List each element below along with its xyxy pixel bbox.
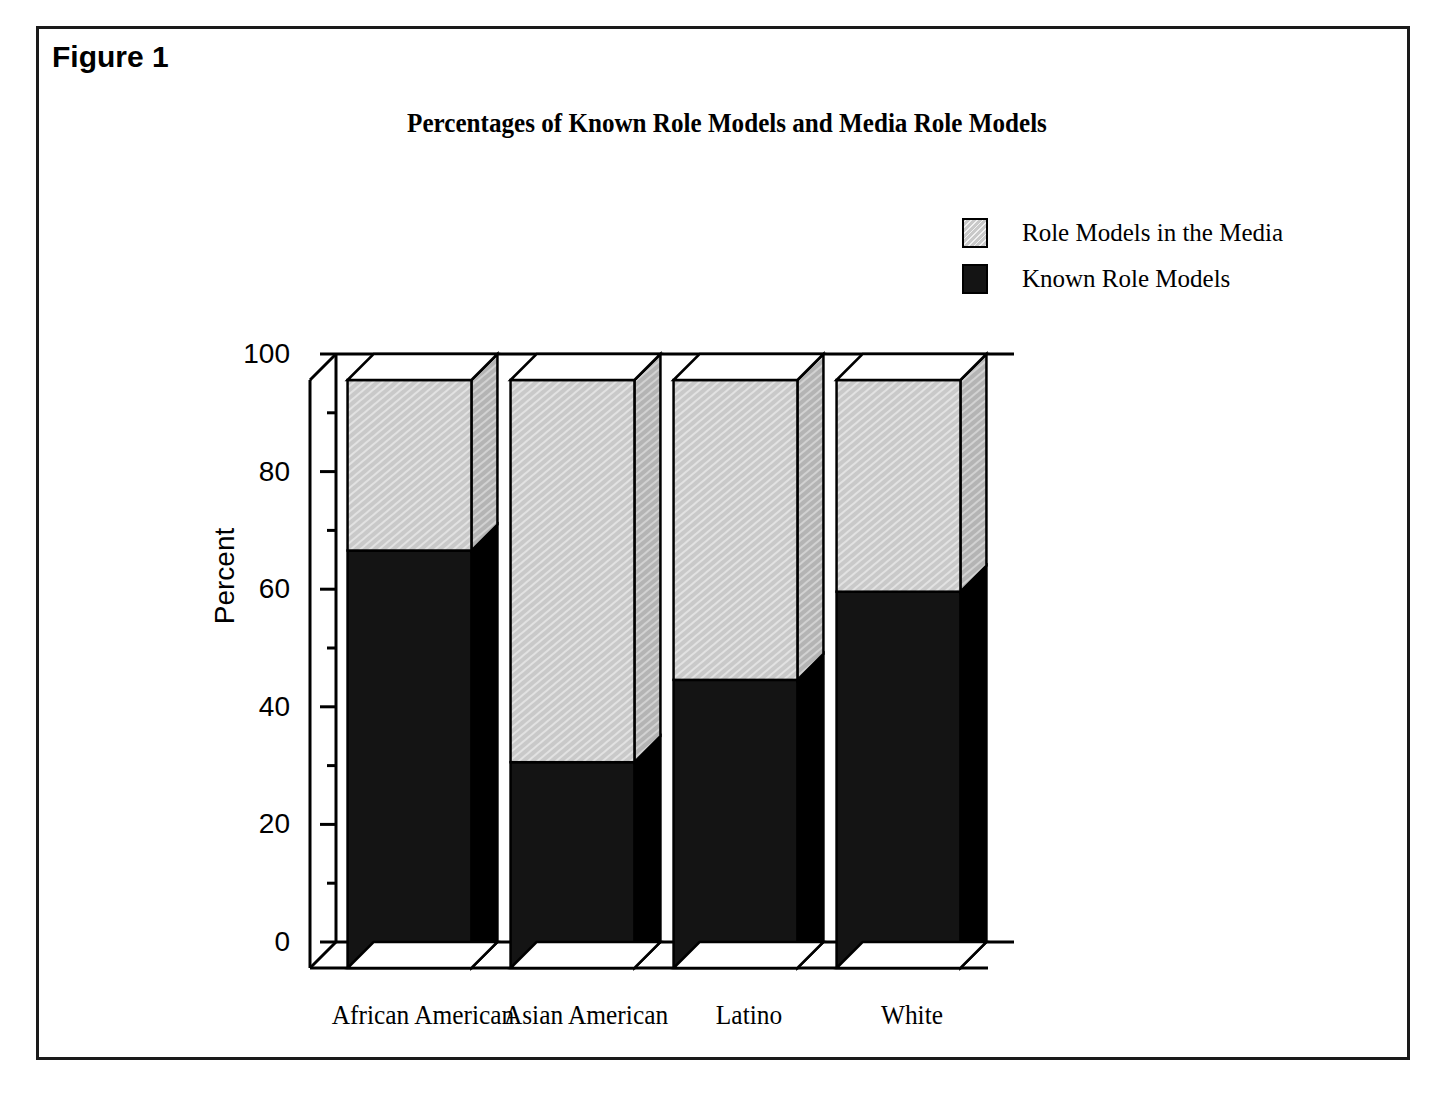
x-tick-white: White — [808, 1000, 1015, 1031]
x-axis-tick-labels: African AmericanAsian AmericanLatinoWhit… — [280, 1000, 1040, 1040]
stacked-bar-chart-svg — [300, 348, 1020, 998]
bar-1 — [348, 354, 498, 968]
bar-2 — [511, 354, 661, 968]
bar-3 — [674, 354, 824, 968]
legend-item-known: Known Role Models — [962, 256, 1382, 302]
chart-legend: Role Models in the Media Known Role Mode… — [962, 210, 1382, 302]
y-tick-0: 0 — [220, 926, 290, 958]
figure-caption: Figure 1 — [52, 40, 169, 74]
y-tick-40: 40 — [220, 691, 290, 723]
legend-label-known: Known Role Models — [1022, 265, 1230, 293]
chart-plot-area — [300, 348, 1020, 998]
y-tick-60: 60 — [220, 573, 290, 605]
legend-swatch-media-icon — [962, 218, 988, 248]
y-tick-80: 80 — [220, 456, 290, 488]
y-axis-ticks — [320, 354, 336, 942]
figure-page: Figure 1 Percentages of Known Role Model… — [0, 0, 1454, 1109]
y-tick-20: 20 — [220, 808, 290, 840]
legend-swatch-known-icon — [962, 264, 988, 294]
chart-title: Percentages of Known Role Models and Med… — [51, 108, 1403, 139]
legend-label-media: Role Models in the Media — [1022, 219, 1283, 247]
bar-4 — [837, 354, 987, 968]
legend-item-media: Role Models in the Media — [962, 210, 1382, 256]
y-axis-tick-labels: 020406080100 — [210, 348, 290, 998]
y-tick-100: 100 — [220, 338, 290, 370]
